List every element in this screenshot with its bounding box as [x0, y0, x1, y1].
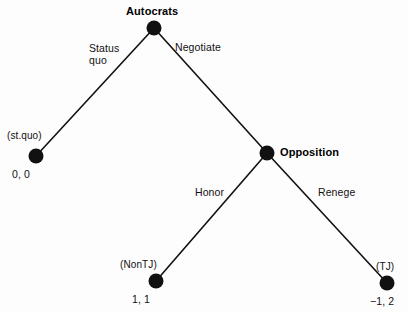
node-label-opposition: Opposition — [280, 146, 339, 159]
edge-label-status-quo-line1: Status — [89, 42, 119, 55]
node-label-autocrats: Autocrats — [126, 5, 178, 18]
edge-label-negotiate: Negotiate — [175, 41, 221, 54]
node-terminal-stquo — [29, 149, 44, 164]
game-tree-figure: Autocrats Opposition Status quo Negotiat… — [0, 0, 408, 313]
payoff-label-nontj: 1, 1 — [132, 293, 150, 306]
node-opposition — [260, 146, 275, 161]
node-autocrats — [147, 21, 162, 36]
outcome-label-stquo: (st.quo) — [7, 130, 42, 143]
node-terminal-nontj — [149, 274, 164, 289]
payoff-label-stquo: 0, 0 — [12, 168, 30, 181]
edge-label-renege: Renege — [318, 186, 355, 199]
edge-label-status-quo-line2: quo — [89, 54, 107, 67]
payoff-label-tj: −1, 2 — [370, 295, 394, 308]
edge-honor — [156, 153, 267, 281]
node-terminal-tj — [380, 276, 395, 291]
outcome-label-tj: (TJ) — [376, 261, 394, 274]
outcome-label-nontj: (NonTJ) — [120, 259, 157, 272]
edge-label-honor: Honor — [195, 186, 224, 199]
tree-nodes — [29, 21, 395, 291]
edge-renege — [267, 153, 387, 283]
